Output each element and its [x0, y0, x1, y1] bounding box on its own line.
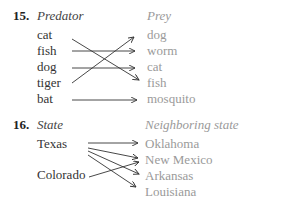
arrow-cat-fish [72, 39, 139, 80]
arrow-texas-new-mexico [88, 148, 138, 158]
arrow-texas-arkansas [88, 151, 139, 174]
arrow-colorado-new-mexico [89, 162, 139, 177]
arrow-tiger-dog [72, 37, 134, 83]
mapping-arrows [0, 0, 281, 207]
arrow-texas-louisiana [88, 155, 136, 187]
